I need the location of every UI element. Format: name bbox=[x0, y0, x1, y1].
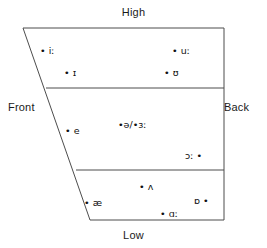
axis-label-low: Low bbox=[0, 229, 267, 241]
vowel-symbol: iː bbox=[49, 45, 55, 56]
axis-label-front: Front bbox=[8, 101, 35, 113]
vowel-symbol: ɜː bbox=[138, 119, 146, 130]
vowel-point-u-long: • uː bbox=[172, 46, 190, 56]
vowel-dot: • bbox=[84, 197, 90, 208]
vowel-point-e: • e bbox=[65, 126, 80, 136]
vowel-symbol: uː bbox=[181, 45, 190, 56]
vowel-symbol: ɪ bbox=[73, 67, 77, 78]
vowel-point-turned-script-a: ɒ • bbox=[194, 196, 209, 206]
vowel-symbol: æ bbox=[93, 197, 102, 208]
vowel-symbol: e bbox=[74, 125, 80, 136]
vowel-point-schwa-and-reversed-epsilon-long: •ə/•ɜː bbox=[118, 120, 147, 130]
vowel-dot: • bbox=[65, 125, 71, 136]
vowel-dot: • bbox=[64, 67, 70, 78]
vowel-point-small-capital-i: • ɪ bbox=[64, 68, 76, 78]
vowel-point-caret: • ʌ bbox=[139, 182, 153, 192]
vowel-dot: • bbox=[172, 45, 178, 56]
vowel-dot: • bbox=[139, 181, 145, 192]
vowel-point-open-o-long: ɔː • bbox=[185, 151, 202, 161]
vowel-point-script-a-long: • ɑː bbox=[160, 209, 178, 219]
vowel-point-i-long: • iː bbox=[40, 46, 54, 56]
axis-label-back: Back bbox=[224, 101, 249, 113]
vowel-symbol: ɒ bbox=[194, 195, 200, 206]
vowel-symbol: ʊ bbox=[173, 67, 179, 78]
vowel-symbol: ə/ bbox=[124, 119, 133, 130]
axis-label-high: High bbox=[0, 6, 267, 18]
vowel-symbol: ɑː bbox=[169, 208, 178, 219]
vowel-dot: • bbox=[160, 208, 166, 219]
vowel-point-ash: • æ bbox=[84, 198, 102, 208]
vowel-dot: • bbox=[203, 195, 209, 206]
vowel-symbol: ɔː bbox=[185, 150, 193, 161]
vowel-symbol: ʌ bbox=[148, 181, 154, 192]
vowel-dot: • bbox=[40, 45, 46, 56]
vowel-dot: • bbox=[164, 67, 170, 78]
vowel-point-upsilon: • ʊ bbox=[164, 68, 179, 78]
vowel-chart: High Low Front Back • iː • ɪ • uː • ʊ • … bbox=[0, 0, 267, 248]
vowel-dot: • bbox=[196, 150, 202, 161]
